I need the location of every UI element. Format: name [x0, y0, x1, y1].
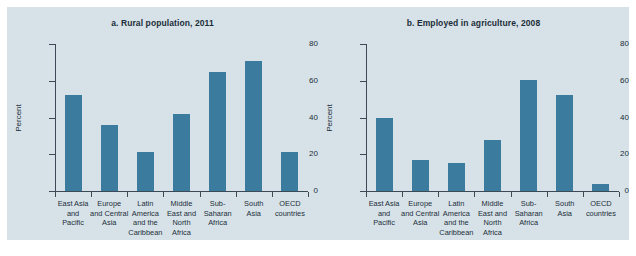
x-axis-labels-b: East AsiaandPacificEuropeand CentralAsia… [366, 199, 619, 245]
x-tick-mark [366, 192, 367, 197]
x-tick-mark [511, 192, 512, 197]
x-axis-category-label-line: OECD [580, 199, 622, 209]
x-axis-category-label: OECDcountries [580, 199, 622, 218]
bar [412, 160, 429, 191]
x-axis-category-label-line: Africa [160, 228, 202, 238]
bar [376, 118, 393, 191]
x-axis-line-a [55, 191, 308, 192]
y-axis-label-b: Percent [325, 104, 334, 132]
bar [137, 152, 154, 191]
x-tick-mark [163, 192, 164, 197]
x-axis-category-label-line: countries [269, 209, 311, 219]
bar [245, 61, 262, 191]
chart-panel-a: a. Rural population, 2011 Percent 020406… [7, 7, 318, 240]
x-tick-mark [402, 192, 403, 197]
x-tick-mark [200, 192, 201, 197]
figure-panel: a. Rural population, 2011 Percent 020406… [7, 7, 629, 240]
x-tick-mark [619, 192, 620, 197]
x-tick-mark [583, 192, 584, 197]
x-axis-category-label: OECDcountries [269, 199, 311, 218]
x-axis-category-label-line: Africa [508, 218, 550, 228]
bar [520, 80, 537, 191]
x-axis-labels-a: East AsiaandPacificEuropeand CentralAsia… [55, 199, 308, 245]
y-axis-label-a: Percent [14, 104, 23, 132]
bar [209, 72, 226, 191]
bars-container-a [55, 44, 308, 191]
bar [173, 114, 190, 191]
x-tick-mark [127, 192, 128, 197]
x-axis-category-label-line: Africa [197, 218, 239, 228]
chart-panel-b: b. Employed in agriculture, 2008 Percent… [318, 7, 629, 240]
bar [556, 95, 573, 191]
x-axis-line-b [366, 191, 619, 192]
chart-title-a: a. Rural population, 2011 [7, 18, 318, 28]
x-tick-mark [474, 192, 475, 197]
x-axis-category-label-line: OECD [269, 199, 311, 209]
x-tick-mark [438, 192, 439, 197]
bar [484, 140, 501, 191]
bar [101, 125, 118, 191]
bars-container-b [366, 44, 619, 191]
x-tick-mark [272, 192, 273, 197]
x-tick-mark [236, 192, 237, 197]
x-axis-category-label-line: Africa [471, 228, 513, 238]
x-tick-mark [91, 192, 92, 197]
x-axis-category-label-line: countries [580, 209, 622, 219]
bar [281, 152, 298, 191]
x-tick-mark [308, 192, 309, 197]
bar [448, 163, 465, 191]
x-tick-mark [55, 192, 56, 197]
bar [65, 95, 82, 191]
x-tick-mark [547, 192, 548, 197]
y-axis-label-wrap-a: Percent [11, 44, 25, 192]
y-axis-label-wrap-b: Percent [322, 44, 336, 192]
chart-title-b: b. Employed in agriculture, 2008 [318, 18, 629, 28]
bar [592, 184, 609, 191]
